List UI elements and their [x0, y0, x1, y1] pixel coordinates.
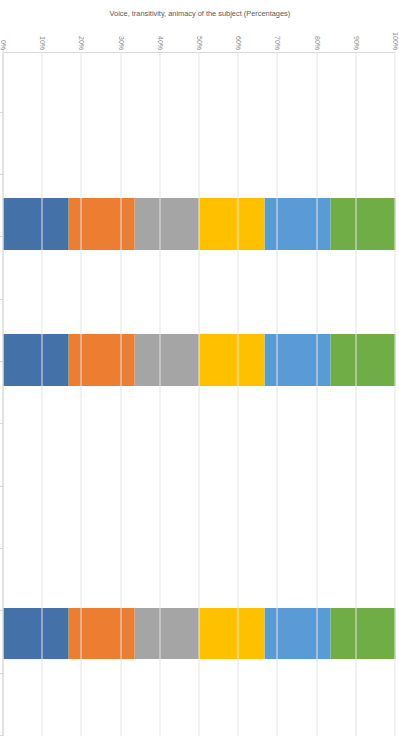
y-tick-label: 50% [196, 36, 203, 50]
bar-segment [199, 198, 264, 250]
gridline [120, 53, 121, 736]
gridline [237, 53, 238, 736]
bar-segment [68, 608, 133, 660]
gridline [80, 53, 81, 736]
bar-segment [264, 198, 329, 250]
gridline [316, 53, 317, 736]
bar-segment [134, 334, 199, 386]
bar-segment [134, 608, 199, 660]
bar-segment [330, 198, 395, 250]
y-tick-label: 70% [274, 36, 281, 50]
bar-segment [199, 608, 264, 660]
y-tick-label: 40% [156, 36, 163, 50]
bar-segment [68, 198, 133, 250]
bar-segment [330, 608, 395, 660]
y-tick-label: 60% [235, 36, 242, 50]
gridline [2, 53, 3, 736]
gridline [394, 53, 395, 736]
plot-row: Voice, transitivity, animacy of the subj… [3, 0, 395, 736]
bar-segment [330, 334, 395, 386]
bar-segment [134, 198, 199, 250]
bar-segment [3, 608, 68, 660]
gridline [198, 53, 199, 736]
y-tick-label: 80% [313, 36, 320, 50]
y-tick-label: 100% [392, 32, 399, 50]
gridline [159, 53, 160, 736]
bar-segment [264, 334, 329, 386]
y-axis-ticks: 100%90%80%70%60%50%40%30%20%10%0% [3, 26, 395, 52]
bar-segment [264, 608, 329, 660]
y-tick-label: 0% [0, 40, 7, 50]
y-axis-title: Voice, transitivity, animacy of the subj… [3, 0, 395, 26]
gridline [41, 53, 42, 736]
y-axis-title-text: Voice, transitivity, animacy of the subj… [109, 8, 290, 17]
y-tick-label: 90% [352, 36, 359, 50]
y-tick-label: 10% [39, 36, 46, 50]
plot-area [3, 52, 395, 736]
bar-segment [199, 334, 264, 386]
bar-segment [3, 198, 68, 250]
y-tick-label: 20% [78, 36, 85, 50]
gridline [355, 53, 356, 736]
gridline [276, 53, 277, 736]
bar-segment [3, 334, 68, 386]
bar-segment [68, 334, 133, 386]
y-tick-label: 30% [117, 36, 124, 50]
